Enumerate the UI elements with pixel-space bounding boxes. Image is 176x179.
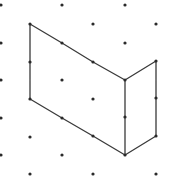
grid-dot [28,172,31,175]
grid-dot [91,22,94,25]
grid-dot [154,59,157,62]
grid-dot [28,60,31,63]
grid-dot [123,78,126,81]
grid-dot [154,134,157,137]
grid-dot [91,60,94,63]
grid-dot [60,116,63,119]
grid-dot [28,135,31,138]
grid-dot [0,41,3,44]
grid-dot [123,153,126,156]
grid-dot [123,115,126,118]
grid-dot [0,3,3,6]
grid-dot [154,96,157,99]
grid-dot [60,3,63,6]
grid-dot [28,97,31,100]
grid-dot [154,172,157,175]
grid-dot [0,78,3,81]
grid-dot [91,97,94,100]
right-face [125,61,156,155]
grid-dot [28,22,31,25]
grid-dot [60,78,63,81]
grid-dot [60,153,63,156]
isometric-dot-grid [0,0,176,179]
isometric-figure-canvas [0,0,176,179]
grid-dot [91,134,94,137]
grid-dot [60,41,63,44]
grid-dot [123,41,126,44]
grid-dot [123,3,126,6]
grid-dot [0,116,3,119]
grid-dot [0,153,3,156]
grid-dot [91,172,94,175]
grid-dot [154,22,157,25]
left-face [30,24,125,155]
